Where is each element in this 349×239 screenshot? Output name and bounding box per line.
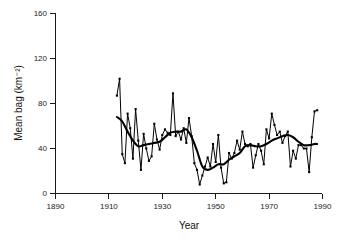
data-point-marker [308,171,310,173]
y-tick-label-80: 80 [38,99,47,108]
data-point-marker [153,123,155,125]
data-point-marker [193,162,195,164]
data-point-marker [180,138,182,140]
x-tick-labels: 1890 1910 1930 1950 1970 1990 [47,202,332,211]
data-point-marker [313,110,315,112]
data-point-marker [271,113,273,115]
data-point-marker [164,128,166,130]
data-point-marker [281,142,283,144]
data-point-marker [252,167,254,169]
y-axis-ticks [50,14,56,194]
data-point-marker [124,162,126,164]
x-axis-title: Year [179,220,200,231]
y-tick-labels: 0 40 80 120 160 [34,9,48,198]
data-point-marker [279,131,281,133]
data-point-marker [145,147,147,149]
y-tick-label-120: 120 [34,54,48,63]
data-point-marker [241,131,243,133]
data-point-marker [295,158,297,160]
data-point-marker [215,161,217,163]
data-point-marker [156,138,158,140]
data-point-marker [268,137,270,139]
data-point-marker [297,144,299,146]
data-point-marker [148,160,150,162]
data-point-marker [143,133,145,135]
y-tick-label-40: 40 [38,144,47,153]
data-point-marker [292,150,294,152]
data-point-marker [236,140,238,142]
data-point-marker [209,165,211,167]
chart-figure: Mean bag (km⁻²) 0 40 80 120 160 [0,0,349,239]
data-point-marker [204,165,206,167]
y-axis-title: Mean bag (km⁻²) [13,65,24,141]
data-point-marker [140,169,142,171]
data-point-marker [260,150,262,152]
y-axis-title-text: Mean bag (km⁻²) [13,65,24,141]
data-point-marker [137,140,139,142]
data-point-marker [316,109,318,111]
x-tick-label-1950: 1950 [207,202,225,211]
x-tick-label-1990: 1990 [314,202,332,211]
data-point-marker [212,143,214,145]
data-point-marker [276,134,278,136]
data-point-marker [207,156,209,158]
data-point-marker [151,155,153,157]
data-point-marker [220,167,222,169]
data-point-marker [217,134,219,136]
data-point-marker [263,163,265,165]
data-point-marker [127,113,129,115]
data-point-marker [116,95,118,97]
data-point-marker [119,78,121,80]
data-point-marker [287,131,289,133]
data-point-marker [199,183,201,185]
data-point-marker [255,154,257,156]
data-point-marker [239,149,241,151]
data-point-marker [185,142,187,144]
data-point-marker [289,165,291,167]
data-point-marker [265,128,267,130]
data-point-marker [223,182,225,184]
line-chart-svg: Mean bag (km⁻²) 0 40 80 120 160 [0,0,349,239]
data-point-marker [129,127,131,129]
data-point-marker [273,124,275,126]
y-tick-label-0: 0 [43,189,48,198]
data-point-marker [303,147,305,149]
data-point-marker [305,147,307,149]
data-point-marker [225,181,227,183]
data-point-marker [135,108,137,110]
data-point-marker [172,92,174,94]
data-point-marker [175,135,177,137]
data-point-marker [159,149,161,151]
data-point-marker [188,117,190,119]
x-tick-label-1890: 1890 [47,202,65,211]
data-point-marker [196,169,198,171]
data-point-marker [228,152,230,154]
data-point-marker [121,153,123,155]
y-tick-label-160: 160 [34,9,48,18]
data-point-marker [201,174,203,176]
x-tick-label-1930: 1930 [153,202,171,211]
x-axis-ticks [56,194,323,200]
x-tick-label-1970: 1970 [260,202,278,211]
data-point-marker [311,136,313,138]
x-tick-label-1910: 1910 [100,202,118,211]
data-point-marker [161,134,163,136]
data-point-marker [233,152,235,154]
data-point-marker [132,158,134,160]
series-annual-markers [116,78,318,186]
x-axis-title-text: Year [179,220,200,231]
data-point-marker [257,143,259,145]
